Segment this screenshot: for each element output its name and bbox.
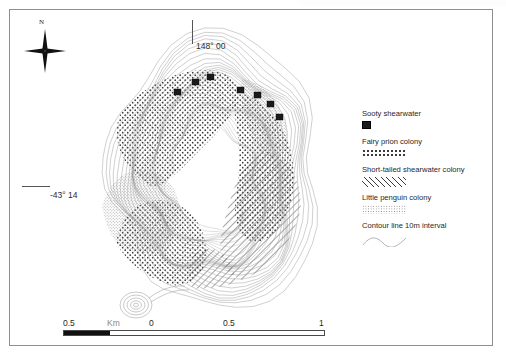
legend-item-contour-line: Contour line 10m interval [362, 220, 490, 245]
north-arrow-label: N [39, 18, 44, 26]
legend-label: Fairy prion colony [362, 136, 490, 147]
map-legend: Sooty shearwater Fairy prion colony Shor… [362, 108, 490, 251]
legend-item-sooty-shearwater: Sooty shearwater [362, 108, 490, 130]
longitude-label: 148° 00 [196, 41, 225, 51]
scale-tick-label: 0.5 [223, 318, 235, 328]
scale-bar: 0.5 Km 0 0.5 1 [63, 318, 325, 336]
scale-unit-label: Km [107, 318, 120, 328]
legend-label: Sooty shearwater [362, 108, 490, 119]
legend-label: Short-tailed shearwater colony [362, 164, 490, 175]
legend-label: Contour line 10m interval [362, 220, 490, 231]
scale-bar-tick-labels: 0.5 Km 0 0.5 1 [63, 318, 325, 330]
scale-tick-label: 1 [319, 318, 324, 328]
legend-swatch-contour-line [362, 233, 408, 245]
scale-bar-track [63, 330, 325, 336]
legend-swatch-black-square [362, 121, 490, 130]
legend-item-little-penguin-colony: Little penguin colony [362, 192, 490, 214]
longitude-tick-line [192, 20, 193, 44]
legend-item-short-tailed-shearwater-colony: Short-tailed shearwater colony [362, 164, 490, 186]
map-figure-canvas: N 148° 00 -43° 14 Sooty shearwater Fairy… [0, 0, 506, 362]
legend-item-fairy-prion-colony: Fairy prion colony [362, 136, 490, 158]
latitude-label: -43° 14 [50, 190, 78, 200]
legend-label: Little penguin colony [362, 192, 490, 203]
top-edge-artifact [300, 0, 506, 6]
legend-swatch-sparse-dots [362, 149, 490, 158]
legend-swatch-diagonal-hatch [362, 177, 490, 186]
legend-swatch-fine-stipple [362, 205, 490, 214]
latitude-tick-line [22, 186, 50, 187]
north-arrow: N [22, 18, 68, 76]
scale-tick-label: 0.5 [63, 318, 75, 328]
compass-star-icon [22, 27, 68, 75]
scale-tick-label: 0 [149, 318, 154, 328]
